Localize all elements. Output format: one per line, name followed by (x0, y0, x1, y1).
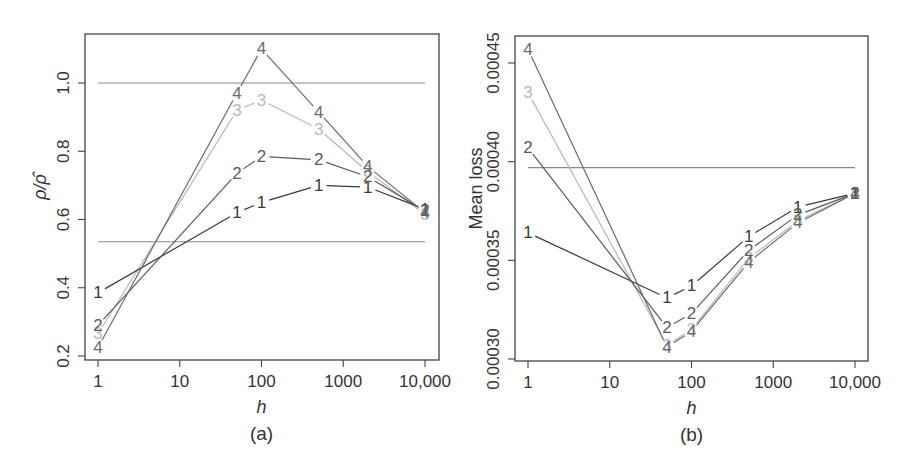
x-axis-title: h (256, 397, 266, 417)
series-segment (755, 211, 791, 232)
series-1: 111111 (93, 176, 429, 302)
data-point-marker: 1 (314, 176, 323, 195)
data-point-marker: 4 (793, 213, 802, 232)
data-point-marker: 1 (523, 223, 532, 242)
series-segment (531, 56, 663, 339)
y-axis-title: ρ/ρ̂ (30, 171, 50, 201)
data-point-marker: 2 (314, 150, 323, 169)
y-tick-label: 0.8 (54, 139, 73, 163)
x-tick-label: 10 (170, 372, 189, 391)
series-segment (697, 268, 744, 325)
series-segment (269, 104, 312, 126)
y-tick-label: 0.6 (54, 208, 73, 232)
x-tick-label: 1 (523, 373, 532, 392)
data-point-marker: 4 (420, 203, 429, 222)
chart-panel-a: 110100100010,0000.20.40.60.81.0ρ/ρ̂h(a)3… (30, 34, 451, 444)
series-segment (244, 103, 254, 107)
series-segment (374, 172, 419, 208)
chart-panel-b: 110100100010,0000.000300.000350.000400.0… (466, 32, 881, 445)
data-point-marker: 3 (257, 91, 266, 110)
y-tick-label: 0.00040 (484, 131, 503, 192)
x-tick-label: 1000 (754, 373, 792, 392)
y-tick-label: 0.2 (54, 344, 73, 368)
series-segment (697, 256, 743, 307)
panel-label: (b) (680, 424, 703, 445)
panel-label: (a) (250, 423, 273, 444)
series-segment (674, 289, 684, 294)
x-tick-label: 1000 (324, 372, 362, 391)
series-3: 333333 (93, 91, 429, 344)
series-segment (269, 157, 310, 159)
x-tick-label: 100 (677, 373, 705, 392)
data-point-marker: 3 (232, 101, 241, 120)
data-point-marker: 3 (314, 120, 323, 139)
series-segment (102, 117, 232, 327)
series-segment (375, 181, 418, 207)
data-point-marker: 4 (744, 253, 753, 272)
y-tick-label: 0.00045 (484, 32, 503, 93)
data-point-marker: 3 (523, 83, 532, 102)
data-point-marker: 4 (314, 103, 323, 122)
y-tick-label: 1.0 (54, 71, 73, 95)
x-tick-label: 10,000 (829, 373, 881, 392)
series-segment (326, 162, 360, 174)
x-tick-label: 10 (600, 373, 619, 392)
series-segment (244, 206, 254, 210)
series-segment (674, 318, 685, 324)
series-segment (102, 100, 233, 340)
data-point-marker: 2 (257, 147, 266, 166)
series-segment (697, 265, 744, 324)
data-point-marker: 4 (662, 338, 671, 357)
data-point-marker: 2 (523, 138, 532, 157)
y-tick-label: 0.4 (54, 276, 73, 300)
data-point-marker: 1 (687, 276, 696, 295)
data-point-marker: 2 (93, 316, 102, 335)
series-segment (535, 236, 659, 294)
x-tick-label: 100 (247, 372, 275, 391)
data-point-marker: 2 (232, 164, 241, 183)
data-point-marker: 4 (523, 40, 532, 59)
data-point-marker: 4 (850, 184, 859, 203)
series-2: 222222 (523, 138, 859, 337)
data-point-marker: 1 (232, 203, 241, 222)
data-point-marker: 1 (93, 283, 102, 302)
figure: 110100100010,0000.20.40.60.81.0ρ/ρ̂h(a)3… (0, 0, 905, 471)
data-point-marker: 4 (93, 338, 102, 357)
y-axis-title: Mean loss (466, 147, 486, 229)
series-segment (269, 188, 311, 200)
data-point-marker: 1 (257, 193, 266, 212)
y-tick-label: 0.00030 (484, 328, 503, 389)
series-segment (241, 56, 258, 86)
series-segment (105, 217, 230, 289)
x-tick-label: 1 (93, 372, 102, 391)
data-point-marker: 4 (687, 322, 696, 341)
x-tick-label: 10,000 (399, 372, 451, 391)
series-segment (103, 179, 231, 319)
series-segment (267, 55, 313, 106)
series-segment (243, 161, 254, 169)
data-point-marker: 1 (662, 288, 671, 307)
series-segment (532, 100, 663, 339)
series-1: 111111 (523, 184, 859, 308)
data-point-marker: 2 (662, 318, 671, 337)
series-segment (327, 186, 360, 187)
data-point-marker: 4 (363, 157, 372, 176)
y-tick-label: 0.00035 (484, 230, 503, 291)
x-axis-title: h (686, 398, 696, 418)
data-point-marker: 4 (257, 39, 266, 58)
data-point-marker: 4 (232, 84, 241, 103)
data-point-marker: 2 (687, 304, 696, 323)
